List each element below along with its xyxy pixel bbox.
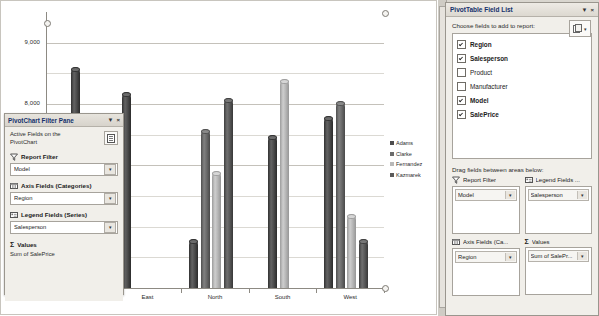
pivotchart-filter-pane[interactable]: PivotChart Filter Pane ▼ × Active Fields… — [4, 113, 124, 295]
chart-legend[interactable]: AdamsClarkeFernandezKazmarek — [390, 140, 436, 182]
area-field-pill[interactable]: Region▾ — [455, 251, 517, 263]
area-field-dropdown-icon[interactable]: ▾ — [505, 191, 515, 199]
bar-cap — [201, 129, 210, 134]
chart-handle-bottomright[interactable] — [382, 285, 389, 292]
field-checkbox[interactable] — [457, 96, 466, 105]
values-item[interactable]: Sum of SalePrice — [10, 251, 118, 257]
area-dropzone[interactable]: Salesperson▾ — [525, 186, 593, 234]
legend-swatch — [390, 152, 394, 156]
combo-dropdown-icon[interactable]: ▾ — [104, 222, 116, 233]
chart-handle-topleft[interactable] — [44, 20, 51, 27]
section-label: Axis Fields (Categories) — [21, 182, 92, 189]
field-label: Model — [470, 97, 488, 104]
combo-dropdown-icon[interactable]: ▾ — [104, 193, 116, 204]
chart-bar[interactable] — [201, 129, 210, 288]
chart-bar[interactable] — [324, 116, 333, 288]
pivottable-field-list[interactable]: PivotTable Field List ▼ × Choose fields … — [445, 2, 599, 316]
section-label: Legend Fields (Series) — [21, 211, 87, 218]
chart-bar[interactable] — [189, 239, 198, 288]
chart-bar[interactable] — [212, 171, 221, 288]
chart-bar[interactable] — [224, 98, 233, 288]
chart-bar[interactable] — [268, 135, 277, 288]
legend-icon — [525, 176, 533, 184]
field-list-toggle-button[interactable] — [104, 131, 118, 145]
chevron-down-icon: ▾ — [109, 196, 112, 201]
field-checkbox[interactable] — [457, 54, 466, 63]
area-field-label: Salesperson — [531, 192, 578, 198]
chevron-down-icon: ▾ — [509, 192, 512, 198]
bar-body — [224, 98, 233, 288]
chart-bar[interactable] — [336, 101, 345, 288]
funnel-icon — [452, 176, 460, 184]
section-combo[interactable]: Region▾ — [10, 192, 118, 205]
bar-body — [212, 171, 221, 288]
sigma-icon: Σ — [525, 238, 529, 245]
chevron-down-icon[interactable]: ▾ — [584, 26, 587, 32]
gridline — [46, 104, 384, 105]
area-field-pill[interactable]: Sum of SalePr...▾ — [528, 250, 590, 262]
field-list-titlebar[interactable]: PivotTable Field List ▼ × — [446, 3, 598, 17]
legend-entry[interactable]: Fernandez — [390, 161, 436, 167]
active-fields-label: Active Fields on the PivotChart — [10, 131, 88, 147]
field-checkbox[interactable] — [457, 68, 466, 77]
legend-entry[interactable]: Clarke — [390, 151, 436, 157]
filter-pane-titlebar[interactable]: PivotChart Filter Pane ▼ × — [5, 114, 123, 127]
legend-icon — [525, 176, 533, 184]
field-checkbox[interactable] — [457, 40, 466, 49]
section-combo[interactable]: Salesperson▾ — [10, 221, 118, 234]
area-cell: ΣValuesSum of SalePr...▾ — [525, 238, 593, 296]
legend-entry[interactable]: Adams — [390, 140, 436, 146]
category-axis-tick-label: South — [253, 294, 313, 300]
field-list-item[interactable]: Model — [457, 93, 587, 107]
field-list-menu-icon[interactable]: ▼ — [582, 7, 588, 13]
chevron-down-icon: ▾ — [581, 253, 584, 259]
area-field-dropdown-icon[interactable]: ▾ — [577, 252, 587, 260]
area-dropzone[interactable]: Sum of SalePr...▾ — [525, 247, 593, 295]
chevron-down-icon: ▾ — [109, 225, 112, 230]
area-title: Values — [532, 239, 550, 245]
field-list-close-icon[interactable]: × — [590, 7, 594, 13]
gridline — [46, 43, 384, 44]
category-axis-tick-label: East — [117, 294, 177, 300]
area-field-pill[interactable]: Model▾ — [455, 189, 517, 201]
filter-pane-close-icon[interactable]: × — [116, 117, 120, 123]
bar-body — [268, 135, 277, 288]
field-checkbox[interactable] — [457, 110, 466, 119]
field-list-item[interactable]: Product — [457, 65, 587, 79]
chart-handle-topright[interactable] — [382, 10, 389, 17]
section-header: Report Filter — [10, 153, 118, 161]
area-dropzone[interactable]: Model▾ — [452, 186, 520, 234]
values-section-header: Σ Values — [10, 241, 118, 248]
chart-bar[interactable] — [280, 79, 289, 288]
field-list-item[interactable]: Salesperson — [457, 51, 587, 65]
field-list-item[interactable]: SalePrice — [457, 107, 587, 121]
section-combo[interactable]: Model▾ — [10, 163, 118, 176]
legend-entry[interactable]: Kazmarek — [390, 172, 436, 178]
area-field-dropdown-icon[interactable]: ▾ — [505, 253, 515, 261]
area-cell: Report FilterModel▾ — [452, 176, 520, 234]
field-checkbox[interactable] — [457, 82, 466, 91]
area-title: Legend Fields ... — [536, 177, 580, 183]
chart-bar[interactable] — [347, 214, 356, 288]
filter-pane-menu-icon[interactable]: ▼ — [108, 117, 114, 123]
section-value: Region — [14, 195, 104, 201]
axis-tick — [249, 288, 250, 293]
area-dropzone[interactable]: Region▾ — [452, 248, 520, 296]
fields-checklist[interactable]: RegionSalespersonProductManufacturerMode… — [452, 33, 592, 159]
area-field-pill[interactable]: Salesperson▾ — [528, 189, 590, 201]
field-list-item[interactable]: Manufacturer — [457, 79, 587, 93]
funnel-icon — [452, 176, 460, 184]
area-title: Axis Fields (Ca... — [463, 239, 508, 245]
bar-body — [347, 214, 356, 288]
bar-body — [324, 116, 333, 288]
bar-cap — [359, 239, 368, 244]
combo-dropdown-icon[interactable]: ▾ — [104, 164, 116, 175]
field-list-layout-button[interactable]: ▾ — [569, 20, 591, 37]
chart-bar[interactable] — [359, 239, 368, 288]
section-value: Model — [14, 166, 104, 172]
field-list-item[interactable]: Region — [457, 37, 587, 51]
area-field-dropdown-icon[interactable]: ▾ — [577, 191, 587, 199]
area-cell: Legend Fields ...Salesperson▾ — [525, 176, 593, 234]
area-field-label: Sum of SalePr... — [531, 253, 578, 259]
area-title: Report Filter — [463, 177, 496, 183]
